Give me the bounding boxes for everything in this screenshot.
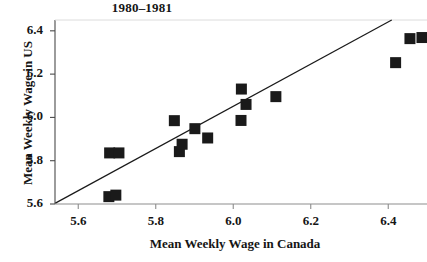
data-point-marker bbox=[236, 84, 247, 95]
x-axis-tick-label: 6.4 bbox=[368, 213, 408, 229]
data-point-marker bbox=[202, 132, 213, 143]
data-point-marker bbox=[177, 139, 188, 150]
y-axis-title: Mean Weekly Wage in US bbox=[20, 13, 36, 213]
x-axis-tick-label: 6.0 bbox=[213, 213, 253, 229]
reference-line-segment bbox=[55, 20, 391, 203]
data-point-marker bbox=[169, 115, 180, 126]
reference-line bbox=[55, 20, 391, 203]
x-axis-ticks bbox=[78, 204, 388, 209]
data-point-marker bbox=[416, 32, 427, 43]
data-point-marker bbox=[270, 91, 281, 102]
axis-frame bbox=[55, 20, 427, 204]
data-point-marker bbox=[404, 33, 415, 44]
x-axis-tick-label: 6.2 bbox=[291, 213, 331, 229]
data-point-marker bbox=[189, 123, 200, 134]
x-axis-tick-label: 5.6 bbox=[58, 213, 98, 229]
x-axis-tick-label: 5.8 bbox=[136, 213, 176, 229]
x-axis-title: Mean Weekly Wage in Canada bbox=[55, 236, 415, 252]
data-point-marker bbox=[241, 99, 252, 110]
data-point-marker bbox=[113, 147, 124, 158]
data-point-series bbox=[103, 32, 427, 202]
y-axis-ticks bbox=[50, 31, 55, 204]
scatter-plot-figure: 1980–1981 5.65.86.06.26.4 5.65.86.06.26.… bbox=[0, 0, 427, 262]
data-point-marker bbox=[110, 190, 121, 201]
data-point-marker bbox=[236, 115, 247, 126]
data-point-marker bbox=[390, 57, 401, 68]
